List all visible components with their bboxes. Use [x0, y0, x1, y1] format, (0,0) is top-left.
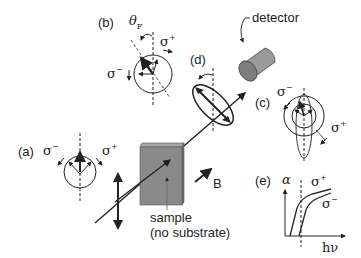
field-label: B — [213, 176, 222, 191]
panel-c — [284, 88, 327, 162]
panel-e-chart — [285, 180, 345, 247]
sample-label: sample — [150, 210, 192, 225]
sigma-plus-b: σ+ — [160, 33, 176, 49]
hnu-axis-label: hν — [322, 240, 338, 255]
alpha-axis-label: α — [282, 172, 291, 187]
label-d: (d) — [190, 52, 206, 67]
sigma-minus-e: σ− — [322, 195, 338, 211]
label-b: (b) — [98, 15, 114, 30]
sample-block — [115, 143, 184, 205]
magnetic-field-arrow — [195, 169, 211, 182]
sigma-plus-c: σ+ — [331, 119, 347, 135]
panel-d — [186, 68, 240, 132]
theta-f-label: θF — [129, 13, 143, 31]
sample-label-2: (no substrate) — [150, 225, 230, 240]
panel-a — [58, 133, 102, 203]
label-c: (c) — [255, 95, 270, 110]
detector-pointer — [241, 18, 250, 42]
sigma-plus-e: σ+ — [311, 173, 327, 189]
sigma-minus-b: σ− — [107, 65, 123, 81]
linear-polarization-arrow — [113, 172, 123, 230]
label-a: (a) — [18, 144, 34, 159]
label-e: (e) — [255, 173, 271, 188]
sigma-minus-c: σ− — [277, 83, 293, 99]
faraday-setup-diagram: sample (no substrate) B detector (a) σ− … — [0, 0, 361, 258]
detector-label: detector — [252, 10, 300, 25]
sigma-plus-a: σ+ — [102, 142, 118, 158]
sigma-minus-a: σ− — [43, 142, 59, 158]
detector — [235, 48, 275, 85]
